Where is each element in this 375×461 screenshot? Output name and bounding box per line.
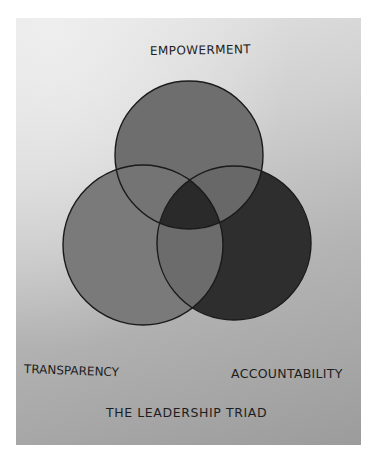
label-accountability: ACCOUNTABILITY [231, 366, 343, 381]
label-empowerment: EMPOWERMENT [150, 42, 251, 58]
venn-diagram [0, 0, 375, 461]
diagram-title: THE LEADERSHIP TRIAD [106, 405, 267, 420]
